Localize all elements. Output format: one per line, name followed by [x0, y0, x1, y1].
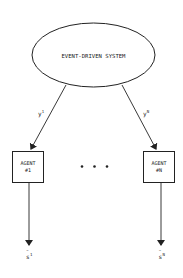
agent-1-label-line2: #1 [25, 167, 31, 173]
agent-n-node: AGENT #N [144, 152, 175, 183]
svg-text:1: 1 [30, 252, 33, 257]
agent-1-node: AGENT #1 [13, 152, 44, 183]
edge-system-to-agent-1 [31, 85, 66, 149]
event-driven-diagram: EVENT-DRIVEN SYSTEM y1 yN AGENT #1 AGENT… [0, 0, 183, 278]
agent-n-label-line2: #N [156, 167, 162, 173]
edge-system-to-agent-n [122, 85, 156, 149]
ellipsis-dots [81, 165, 109, 168]
svg-text:N: N [163, 252, 166, 257]
agent-n-label-line1: AGENT [151, 160, 166, 166]
output-label-s1: ~ s 1 [26, 248, 33, 260]
edge-label-yn: yN [143, 109, 150, 118]
edge-label-y1: y1 [38, 109, 45, 118]
output-label-sn: ~ s N [159, 248, 166, 260]
agent-1-label-line1: AGENT [20, 160, 35, 166]
event-driven-system-node: EVENT-DRIVEN SYSTEM [32, 23, 155, 87]
system-label: EVENT-DRIVEN SYSTEM [62, 53, 127, 59]
